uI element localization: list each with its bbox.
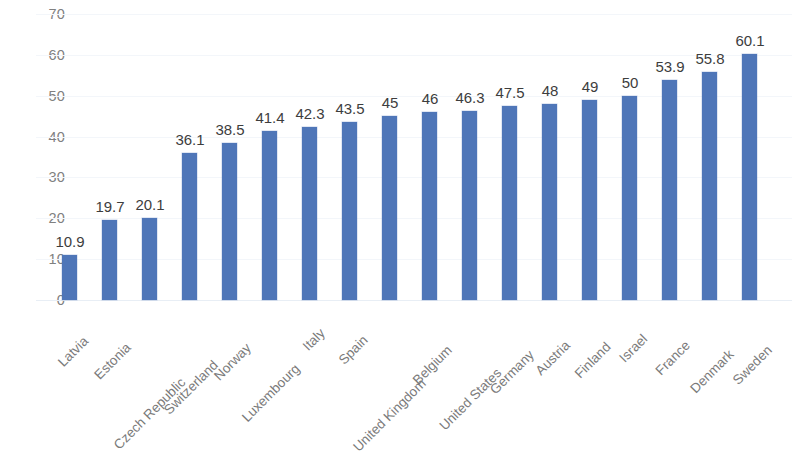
x-axis-tick: Czech Republic bbox=[130, 308, 170, 309]
bar-value-label: 49 bbox=[582, 79, 599, 94]
bar-value-label: 53.9 bbox=[655, 59, 684, 74]
x-axis-tick: Luxembourg bbox=[250, 308, 290, 309]
bar-group[interactable]: 60.1 bbox=[730, 24, 770, 300]
x-axis-tick: Finland bbox=[570, 308, 610, 309]
x-axis-tick: Israel bbox=[610, 308, 650, 309]
x-axis-tick-label: Finland bbox=[572, 339, 614, 381]
bar-value-label: 41.4 bbox=[255, 110, 284, 125]
x-axis-tick: United States bbox=[450, 308, 490, 309]
plot-area: 010203040506070 10.919.720.136.138.541.4… bbox=[36, 0, 796, 302]
x-axis-tick: Sweden bbox=[730, 308, 770, 309]
bar[interactable] bbox=[502, 106, 517, 300]
x-axis-tick: Spain bbox=[330, 308, 370, 309]
x-axis-tick-label: Denmark bbox=[687, 347, 737, 397]
bar-group[interactable]: 38.5 bbox=[210, 113, 250, 300]
bar-group[interactable]: 46 bbox=[410, 82, 450, 300]
bar-group[interactable]: 36.1 bbox=[170, 123, 210, 300]
bar-value-label: 19.7 bbox=[95, 199, 124, 214]
x-axis-tick: Latvia bbox=[50, 308, 90, 309]
bar-group[interactable]: 50 bbox=[610, 66, 650, 300]
x-axis-tick-label: Luxembourg bbox=[239, 361, 303, 425]
bar-value-label: 45 bbox=[382, 95, 399, 110]
x-axis-tick: Italy bbox=[290, 308, 330, 309]
bar[interactable] bbox=[62, 255, 77, 300]
x-axis-tick: Denmark bbox=[690, 308, 730, 309]
bar[interactable] bbox=[742, 54, 757, 300]
bar[interactable] bbox=[542, 104, 557, 300]
bar-value-label: 10.9 bbox=[55, 234, 84, 249]
bar-value-label: 48 bbox=[542, 83, 559, 98]
bar-value-label: 55.8 bbox=[695, 51, 724, 66]
x-axis-tick: France bbox=[650, 308, 690, 309]
bar-group[interactable]: 10.9 bbox=[50, 225, 90, 300]
x-axis-tick: Norway bbox=[210, 308, 250, 309]
x-axis-tick-label: Norway bbox=[211, 340, 254, 383]
x-axis-tick-label: Israel bbox=[616, 331, 650, 365]
bar-value-label: 20.1 bbox=[135, 197, 164, 212]
x-axis-tick-label: Spain bbox=[336, 332, 371, 367]
x-axis-tick-label: Estonia bbox=[91, 340, 134, 383]
x-axis-tick: Germany bbox=[490, 308, 530, 309]
bars-layer: 10.919.720.136.138.541.442.343.5454646.3… bbox=[36, 0, 796, 302]
bar-value-label: 46 bbox=[422, 91, 439, 106]
x-axis-tick-label: Italy bbox=[300, 326, 328, 354]
bar[interactable] bbox=[142, 218, 157, 300]
bar-group[interactable]: 20.1 bbox=[130, 188, 170, 300]
x-axis-tick: Belgium bbox=[410, 308, 450, 309]
bar-value-label: 50 bbox=[622, 75, 639, 90]
bar-group[interactable]: 42.3 bbox=[290, 97, 330, 300]
bar-group[interactable]: 41.4 bbox=[250, 101, 290, 300]
x-axis-tick-label: United Kingdom bbox=[350, 376, 429, 455]
bar[interactable] bbox=[222, 143, 237, 300]
bar-group[interactable]: 46.3 bbox=[450, 81, 490, 300]
bar-group[interactable]: 19.7 bbox=[90, 190, 130, 300]
x-axis-tick: Switzerland bbox=[170, 308, 210, 309]
bar-value-label: 46.3 bbox=[455, 90, 484, 105]
x-axis-tick-label: France bbox=[653, 338, 694, 379]
bar[interactable] bbox=[422, 112, 437, 300]
bar-group[interactable]: 55.8 bbox=[690, 42, 730, 300]
bar-value-label: 42.3 bbox=[295, 106, 324, 121]
x-axis-tick: Estonia bbox=[90, 308, 130, 309]
bar[interactable] bbox=[102, 220, 117, 300]
bar-value-label: 60.1 bbox=[735, 33, 764, 48]
x-axis-tick: United Kingdom bbox=[370, 308, 410, 309]
bar[interactable] bbox=[702, 72, 717, 300]
x-axis-tick-label: United States bbox=[436, 365, 504, 433]
bar-value-label: 38.5 bbox=[215, 122, 244, 137]
x-axis-tick-label: Sweden bbox=[730, 343, 775, 388]
x-axis-tick-label: Latvia bbox=[55, 333, 91, 369]
bar[interactable] bbox=[302, 127, 317, 300]
bar[interactable] bbox=[662, 80, 677, 300]
bar-value-label: 43.5 bbox=[335, 101, 364, 116]
bar[interactable] bbox=[182, 153, 197, 300]
bar-group[interactable]: 53.9 bbox=[650, 50, 690, 300]
bar[interactable] bbox=[342, 122, 357, 300]
x-axis: LatviaEstoniaCzech RepublicSwitzerlandNo… bbox=[36, 302, 796, 408]
x-axis-tick-label: Belgium bbox=[410, 342, 455, 387]
bar[interactable] bbox=[622, 96, 637, 300]
bar-group[interactable]: 45 bbox=[370, 86, 410, 300]
bar-value-label: 36.1 bbox=[175, 132, 204, 147]
x-axis-tick: Austria bbox=[530, 308, 570, 309]
bar-group[interactable]: 48 bbox=[530, 74, 570, 300]
x-axis-tick-label: Austria bbox=[533, 338, 574, 379]
bar-value-label: 47.5 bbox=[495, 85, 524, 100]
x-axis-tick-label: Czech Republic bbox=[111, 375, 189, 453]
bar[interactable] bbox=[262, 131, 277, 300]
bar[interactable] bbox=[582, 100, 597, 300]
bar-group[interactable]: 49 bbox=[570, 70, 610, 300]
bar[interactable] bbox=[462, 111, 477, 300]
bar-group[interactable]: 47.5 bbox=[490, 76, 530, 300]
bar-group[interactable]: 43.5 bbox=[330, 92, 370, 300]
bar[interactable] bbox=[382, 116, 397, 300]
